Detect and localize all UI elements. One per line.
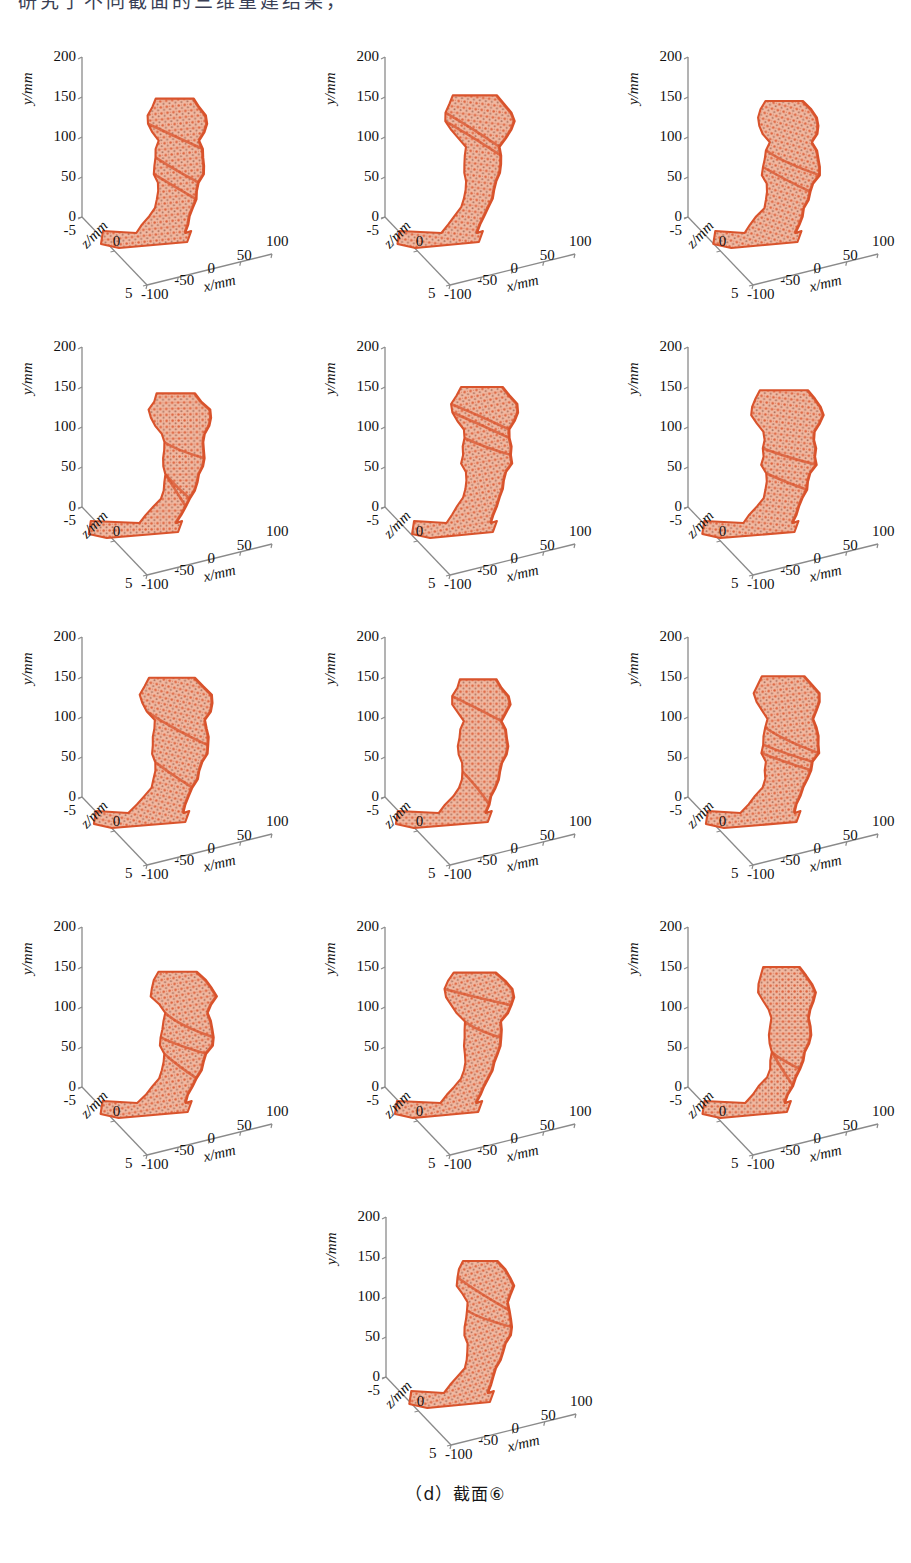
x-tick-label: -100 <box>444 1157 472 1172</box>
z-tick-label-5: 5 <box>428 1156 436 1171</box>
x-tick-label: 100 <box>872 234 895 249</box>
y-axis-label: y/mm <box>323 73 338 106</box>
y-tick-label: 50 <box>636 169 682 184</box>
x-tick-label: -50 <box>780 273 800 288</box>
y-tick-label: 150 <box>636 669 682 684</box>
y-axis-label: y/mm <box>20 943 35 976</box>
z-tick-label-0: 0 <box>416 1104 424 1119</box>
x-tick-label: 0 <box>511 841 519 856</box>
x-tick-label: 0 <box>511 261 519 276</box>
x-tick-label: -50 <box>174 563 194 578</box>
subplot-6[interactable]: 200150100500-5y/mm05z/mm-100-50050100x/m… <box>606 316 909 606</box>
y-axis-label: y/mm <box>323 653 338 686</box>
subplot-7[interactable]: 200150100500-5y/mm05z/mm-100-50050100x/m… <box>0 606 303 896</box>
x-tick-label: -100 <box>141 1157 169 1172</box>
subplot-3[interactable]: 200150100500-5y/mm05z/mm-100-50050100x/m… <box>606 26 909 316</box>
x-tick-label: 0 <box>814 551 822 566</box>
x-tick-label: 100 <box>569 1104 592 1119</box>
subplot-1[interactable]: 200150100500-5y/mm05z/mm-100-50050100x/m… <box>0 26 303 316</box>
x-tick-label: 0 <box>208 841 216 856</box>
x-tick-label: 50 <box>843 538 858 553</box>
x-tick-label: 100 <box>872 524 895 539</box>
y-axis-label: y/mm <box>20 73 35 106</box>
z-tick-label-0: 0 <box>719 814 727 829</box>
x-tick-label: 0 <box>512 1421 520 1436</box>
subplot-12[interactable]: 200150100500-5y/mm05z/mm-100-50050100x/m… <box>606 896 909 1186</box>
x-tick-label: -100 <box>747 1157 775 1172</box>
y-tick-label: 200 <box>333 629 379 644</box>
y-tick-label: 100 <box>333 999 379 1014</box>
x-tick-label: 50 <box>843 828 858 843</box>
x-tick-label: 50 <box>540 1118 555 1133</box>
y-tick-label: 150 <box>30 89 76 104</box>
x-tick-label: 0 <box>814 261 822 276</box>
x-tick-label: -100 <box>141 577 169 592</box>
y-tick-label-min: -5 <box>333 223 379 238</box>
y-tick-label: 150 <box>636 89 682 104</box>
z-tick-label-5: 5 <box>731 286 739 301</box>
subplot-8[interactable]: 200150100500-5y/mm05z/mm-100-50050100x/m… <box>303 606 606 896</box>
subplot-4[interactable]: 200150100500-5y/mm05z/mm-100-50050100x/m… <box>0 316 303 606</box>
z-tick-label-0: 0 <box>113 814 121 829</box>
x-tick-label: 0 <box>814 841 822 856</box>
y-tick-label: 100 <box>334 1289 380 1304</box>
subplot-9[interactable]: 200150100500-5y/mm05z/mm-100-50050100x/m… <box>606 606 909 896</box>
x-tick-label: -50 <box>780 1143 800 1158</box>
z-tick-label-5: 5 <box>125 576 133 591</box>
y-tick-label: 150 <box>333 669 379 684</box>
x-tick-label: -100 <box>141 867 169 882</box>
x-tick-label: -50 <box>477 1143 497 1158</box>
x-tick-label: -50 <box>477 273 497 288</box>
z-tick-label-5: 5 <box>125 866 133 881</box>
x-tick-label: 0 <box>208 261 216 276</box>
subplot-10[interactable]: 200150100500-5y/mm05z/mm-100-50050100x/m… <box>0 896 303 1186</box>
y-tick-label: 200 <box>30 339 76 354</box>
x-tick-label: -100 <box>444 577 472 592</box>
y-tick-label: 50 <box>333 1039 379 1054</box>
y-tick-label: 150 <box>636 379 682 394</box>
y-tick-label: 100 <box>333 419 379 434</box>
y-tick-label: 200 <box>30 919 76 934</box>
x-tick-label: 100 <box>266 1104 289 1119</box>
y-tick-label: 200 <box>333 49 379 64</box>
y-tick-label: 50 <box>333 749 379 764</box>
y-tick-label: 50 <box>333 459 379 474</box>
y-tick-label-min: -5 <box>30 1093 76 1108</box>
subplot-11[interactable]: 200150100500-5y/mm05z/mm-100-50050100x/m… <box>303 896 606 1186</box>
x-tick-label: 50 <box>237 248 252 263</box>
subplot-13[interactable]: 200150100500-5y/mm05z/mm-100-50050100x/m… <box>304 1186 607 1476</box>
y-tick-label: 200 <box>30 629 76 644</box>
x-tick-label: 100 <box>569 814 592 829</box>
x-tick-label: 0 <box>208 1131 216 1146</box>
x-tick-label: -50 <box>477 563 497 578</box>
y-tick-label: 200 <box>30 49 76 64</box>
y-tick-label: 150 <box>333 959 379 974</box>
y-tick-label: 100 <box>636 419 682 434</box>
x-tick-label: 100 <box>266 234 289 249</box>
x-tick-label: 0 <box>208 551 216 566</box>
z-tick-label-5: 5 <box>428 286 436 301</box>
x-tick-label: -50 <box>478 1433 498 1448</box>
x-tick-label: 50 <box>843 1118 858 1133</box>
y-tick-label-min: -5 <box>636 1093 682 1108</box>
subplot-row: 200150100500-5y/mm05z/mm-100-50050100x/m… <box>0 26 911 316</box>
subplot-2[interactable]: 200150100500-5y/mm05z/mm-100-50050100x/m… <box>303 26 606 316</box>
y-tick-label-min: -5 <box>30 223 76 238</box>
y-tick-label-min: -5 <box>333 513 379 528</box>
y-axis-label: y/mm <box>20 653 35 686</box>
y-axis-label: y/mm <box>626 653 641 686</box>
y-axis-label: y/mm <box>626 363 641 396</box>
y-tick-label: 100 <box>30 129 76 144</box>
subplot-5[interactable]: 200150100500-5y/mm05z/mm-100-50050100x/m… <box>303 316 606 606</box>
x-tick-label: 50 <box>540 248 555 263</box>
x-tick-label: -50 <box>780 563 800 578</box>
x-tick-label: -100 <box>141 287 169 302</box>
y-tick-label-min: -5 <box>333 803 379 818</box>
x-tick-label: -100 <box>445 1447 473 1462</box>
subplot-row: 200150100500-5y/mm05z/mm-100-50050100x/m… <box>0 316 911 606</box>
x-tick-label: -100 <box>747 867 775 882</box>
y-tick-label: 100 <box>30 709 76 724</box>
y-tick-label: 200 <box>334 1209 380 1224</box>
x-tick-label: 50 <box>540 828 555 843</box>
y-tick-label: 50 <box>636 749 682 764</box>
